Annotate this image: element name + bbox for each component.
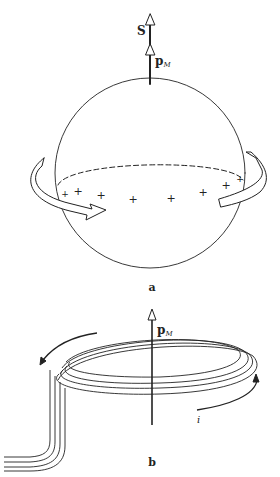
- charge: +: [221, 179, 230, 192]
- moment-label-main: p: [155, 54, 163, 68]
- dashed-equator: [58, 165, 243, 185]
- charges: + + + + + + + +: [61, 174, 244, 206]
- charge: +: [128, 193, 137, 206]
- panel-a-label: a: [148, 281, 155, 294]
- moment-label-b-sub: M: [164, 330, 173, 338]
- charge: +: [96, 189, 105, 202]
- charge: +: [236, 174, 244, 184]
- panel-b-label: b: [148, 456, 156, 469]
- moment-arrowhead-icon: [146, 44, 155, 55]
- moment-arrowhead-b-icon: [148, 309, 156, 320]
- charge: +: [166, 192, 175, 205]
- charge: +: [198, 186, 207, 199]
- charge: +: [73, 185, 82, 198]
- charge: +: [61, 189, 69, 199]
- spin-arrowhead-icon: [146, 14, 155, 25]
- current-arrowhead-right-icon: [253, 374, 259, 382]
- current-label: i: [197, 414, 200, 425]
- panel-a: [31, 14, 267, 268]
- spin-label: S: [137, 24, 146, 38]
- moment-label-b-main: p: [157, 323, 165, 337]
- moment-label-b: pM: [157, 323, 173, 338]
- diagram-canvas: + + + + + + + + S pM a p: [0, 0, 280, 477]
- sphere: [55, 78, 245, 268]
- moment-label-sub: M: [162, 61, 171, 69]
- panel-b: [4, 309, 259, 471]
- moment-label: pM: [155, 54, 171, 69]
